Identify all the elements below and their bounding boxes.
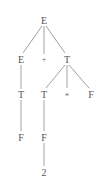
- node-f-right: F: [88, 89, 94, 100]
- edge-t-to-t: [46, 65, 65, 88]
- node-star: *: [65, 91, 70, 101]
- node-root-e: E: [41, 15, 47, 26]
- node-two: 2: [42, 167, 47, 178]
- node-f-left: F: [18, 132, 24, 143]
- edge-root-to-e: [23, 26, 42, 53]
- node-e: E: [18, 54, 24, 65]
- node-plus: +: [41, 54, 46, 64]
- parse-tree-diagram: E E + T T T * F F F 2: [0, 0, 102, 190]
- node-t: T: [64, 54, 70, 65]
- edge-t-to-f: [69, 65, 89, 88]
- node-t-mid: T: [41, 89, 47, 100]
- node-t-left: T: [18, 89, 24, 100]
- edge-root-to-t: [46, 26, 65, 53]
- node-f-mid: F: [41, 132, 47, 143]
